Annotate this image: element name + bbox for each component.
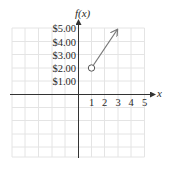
x-tick-label: 3 [115,97,120,108]
x-tick-label: 4 [128,97,134,108]
y-axis-title: f(x) [75,7,91,20]
x-tick-label: 5 [142,97,147,108]
y-tick-label: $3.00 [52,50,76,61]
x-axis-title: x [156,87,162,99]
chart: f(x) x $5.00 $4.00 $3.00 $2.00 $1.00 1 2… [0,0,170,171]
x-tick-label: 2 [102,97,107,108]
y-tick-label: $1.00 [52,76,76,87]
y-tick-label: $5.00 [52,23,76,34]
y-tick-label: $2.00 [52,63,76,74]
y-tick-label: $4.00 [52,37,76,48]
x-tick-label: 1 [89,97,94,108]
open-circle-endpoint [88,65,94,71]
function-ray [94,30,118,65]
